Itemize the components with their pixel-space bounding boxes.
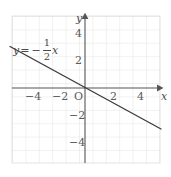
y-tick-label-neg4: −4 [69,137,85,148]
equation-variable: x [52,45,58,56]
y-tick-label-pos2: 2 [75,55,82,66]
origin-label: O [74,91,83,102]
equation-minus-sign: − [31,45,40,56]
coordinate-plane-figure: −4 −2 2 4 4 2 −2 −4 O x y y = − 1 2 x [0,0,171,177]
x-axis-label: x [161,91,167,102]
fraction-numerator: 1 [43,38,51,49]
fraction-denominator: 2 [43,52,51,63]
y-tick-label-pos4: 4 [75,28,82,39]
equation-fraction: 1 2 [43,38,51,62]
x-tick-label-neg4: −4 [25,91,41,102]
y-tick-label-neg2: −2 [69,110,85,121]
graph-canvas [0,0,171,177]
y-axis-label: y [76,13,82,24]
equation-lhs: y [13,45,19,56]
x-tick-label-neg2: −2 [52,91,68,102]
x-tick-label-pos4: 4 [137,91,144,102]
equation-equals-sign: = [20,45,29,56]
equation-annotation: y = − 1 2 x [13,38,58,62]
x-tick-label-pos2: 2 [110,91,117,102]
